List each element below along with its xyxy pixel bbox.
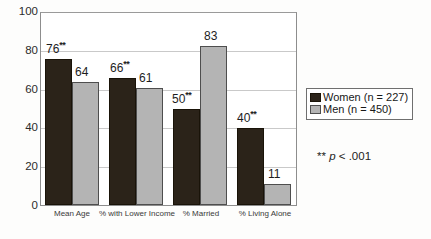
legend-swatch-men-icon bbox=[310, 105, 321, 114]
bar-value-women: 66** bbox=[110, 60, 129, 74]
y-tick-label: 0 bbox=[2, 200, 38, 212]
bar-value-text: 83 bbox=[204, 29, 217, 43]
bar-value-women: 50** bbox=[172, 91, 191, 105]
x-tick-label-living-alone: % Living Alone bbox=[239, 209, 291, 218]
bar-women bbox=[173, 109, 200, 205]
bar-men bbox=[136, 88, 163, 205]
bar-chart-figure: 100 80 60 40 20 0 76** 64 bbox=[0, 0, 431, 239]
x-tick-label-lower-income: % with Lower Income bbox=[99, 209, 175, 218]
footnote-marker: ** bbox=[317, 150, 326, 162]
bar-value-text: 11 bbox=[268, 167, 280, 181]
significance-marker: ** bbox=[185, 90, 191, 100]
bar-group: 76** 64 bbox=[43, 13, 103, 205]
x-tick-label-mean-age: Mean Age bbox=[54, 209, 90, 218]
bar-value-men: 61 bbox=[139, 72, 152, 84]
bars-layer: 76** 64 66** 61 50** 83 bbox=[41, 13, 296, 205]
bar-men bbox=[200, 46, 227, 205]
x-tick-label-married: % Married bbox=[183, 209, 219, 218]
bar-value-text: 76 bbox=[46, 42, 59, 56]
bar-value-women: 76** bbox=[46, 41, 65, 55]
significance-marker: ** bbox=[250, 109, 256, 119]
legend-item-men: Men (n = 450) bbox=[310, 104, 408, 115]
legend-item-women: Women (n = 227) bbox=[310, 92, 408, 103]
bar-men bbox=[264, 184, 291, 205]
legend: Women (n = 227) Men (n = 450) bbox=[306, 88, 413, 120]
bar-group: 66** 61 bbox=[107, 13, 167, 205]
y-tick-label: 60 bbox=[2, 84, 38, 96]
legend-label-men: Men (n = 450) bbox=[323, 104, 392, 115]
bar-value-text: 50 bbox=[172, 92, 185, 106]
legend-label-women: Women (n = 227) bbox=[323, 92, 408, 103]
footnote-significance: ** p < .001 bbox=[317, 150, 371, 162]
bar-value-men: 11 bbox=[268, 168, 280, 180]
bar-group: 40** 11 bbox=[235, 13, 295, 205]
bar-value-men: 83 bbox=[204, 30, 217, 42]
significance-marker: ** bbox=[123, 59, 129, 69]
bar-value-text: 66 bbox=[110, 61, 123, 75]
significance-marker: ** bbox=[59, 40, 65, 50]
bar-men bbox=[72, 82, 99, 205]
bar-value-text: 61 bbox=[139, 71, 152, 85]
bar-value-text: 64 bbox=[75, 65, 88, 79]
y-tick-label: 40 bbox=[2, 123, 38, 135]
x-axis: Mean Age % with Lower Income % Married %… bbox=[40, 209, 297, 227]
bar-women bbox=[45, 59, 72, 205]
bar-value-text: 40 bbox=[237, 111, 250, 125]
y-tick-label: 80 bbox=[2, 45, 38, 57]
bar-women bbox=[237, 128, 264, 205]
y-axis: 100 80 60 40 20 0 bbox=[0, 12, 38, 206]
footnote-comparison: < .001 bbox=[336, 150, 372, 162]
bar-value-men: 64 bbox=[75, 66, 88, 78]
y-tick-label: 100 bbox=[2, 6, 38, 18]
bar-women bbox=[109, 78, 136, 205]
bar-value-women: 40** bbox=[237, 110, 256, 124]
legend-swatch-women-icon bbox=[310, 93, 321, 102]
bar-group: 50** 83 bbox=[171, 13, 231, 205]
y-tick-label: 20 bbox=[2, 161, 38, 173]
